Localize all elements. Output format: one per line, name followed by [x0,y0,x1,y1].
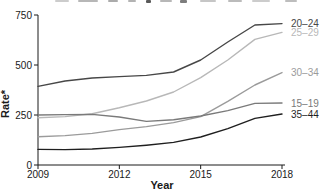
y-axis-title: Rate* [0,89,11,118]
series-line-35-44 [38,114,282,150]
series-label-15-19: 15–19 [291,98,319,109]
y-tick-label: 250 [15,110,32,121]
series-end-labels: 20–2425–2930–3415–1935–44 [291,18,319,119]
series-label-35-44: 35–44 [291,109,319,120]
series-label-25-29: 25–29 [291,27,319,38]
series-line-20-24 [38,24,282,87]
x-tick-label: 2018 [271,169,294,180]
x-tick-label: 2012 [108,169,131,180]
tick-labels: 02505007502009201220152018 [15,10,293,180]
axes [34,15,285,169]
series-label-30-34: 30–34 [291,67,319,78]
figure: 02505007502009201220152018 20–2425–2930–… [0,0,324,194]
series-lines [38,24,282,150]
x-tick-label: 2009 [27,169,50,180]
series-line-30-34 [38,73,282,137]
y-tick-label: 750 [15,10,32,21]
y-tick-label: 500 [15,60,32,71]
series-line-25-29 [38,32,282,117]
x-tick-label: 2015 [190,169,213,180]
x-axis-title: Year [150,179,174,191]
line-chart: 02505007502009201220152018 20–2425–2930–… [0,0,324,194]
series-line-15-19 [38,103,282,121]
